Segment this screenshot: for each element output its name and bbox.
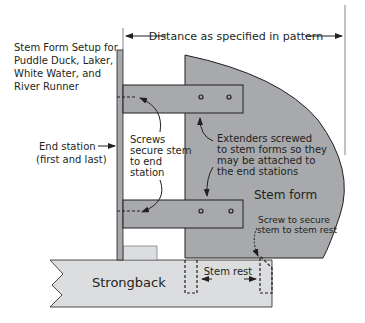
end-station bbox=[117, 50, 123, 260]
end-station-label: End station (first and last) bbox=[36, 141, 107, 165]
small-block bbox=[123, 246, 157, 260]
stem-form-label: Stem form bbox=[254, 188, 317, 202]
bottom-extender bbox=[123, 200, 243, 228]
stem-rest-label: Stem rest bbox=[204, 266, 253, 277]
stem-form-diagram: Distance as specified in pattern Strongb… bbox=[0, 0, 365, 323]
distance-label: Distance as specified in pattern bbox=[149, 30, 323, 43]
top-extender bbox=[123, 85, 243, 113]
diagram-title: Stem Form Setup for Puddle Duck, Laker, … bbox=[14, 42, 121, 92]
screw-rest-label: Screw to secure stem to stem rest bbox=[257, 215, 337, 235]
strongback-label: Strongback bbox=[92, 275, 166, 290]
